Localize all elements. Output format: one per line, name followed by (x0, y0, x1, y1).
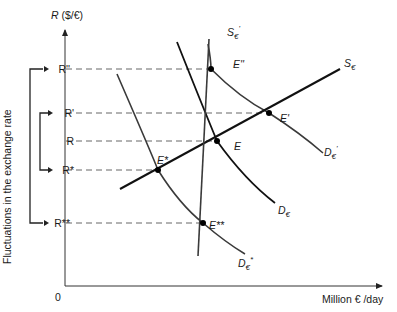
label-e-double-prime: E'' (233, 59, 244, 70)
x-axis-title: Million € /day (322, 294, 383, 305)
equilibrium-points (155, 66, 272, 226)
tick-r-double-prime: R'' (50, 64, 70, 75)
label-d-star: D€* (238, 256, 253, 272)
fluctuation-brackets (30, 69, 48, 223)
point-e-star (155, 167, 161, 173)
arrow-icon (44, 220, 49, 226)
label-s: S€ (344, 58, 355, 72)
arrow-icon (44, 66, 49, 72)
label-d-prime: D€' (324, 145, 338, 161)
y-axis-title: R ($/€) (51, 10, 83, 21)
point-e-double-prime (208, 66, 214, 72)
label-d: D€ (278, 205, 290, 219)
tick-r-star: R* (54, 165, 74, 176)
fluctuations-label: Fluctuations in the exchange rate (1, 109, 13, 264)
label-s-prime: S€' (227, 25, 240, 41)
point-e (214, 138, 220, 144)
point-e-prime (266, 110, 272, 116)
point-e-double-star (200, 220, 206, 226)
label-e: E (234, 141, 241, 152)
arrow-icon (48, 167, 53, 173)
demand-curve-d-prime (208, 44, 323, 153)
demand-curve-d (177, 42, 275, 203)
tick-r-prime: R' (54, 108, 74, 119)
tick-r-double-star: R** (50, 218, 70, 229)
label-e-prime: E' (280, 113, 289, 124)
arrow-icon (48, 110, 53, 116)
label-e-star: E* (157, 155, 168, 166)
origin-label: 0 (55, 292, 61, 303)
label-e-double-star: E** (209, 220, 224, 231)
tick-r: R (54, 136, 74, 147)
demand-curve-d-star (117, 74, 245, 254)
